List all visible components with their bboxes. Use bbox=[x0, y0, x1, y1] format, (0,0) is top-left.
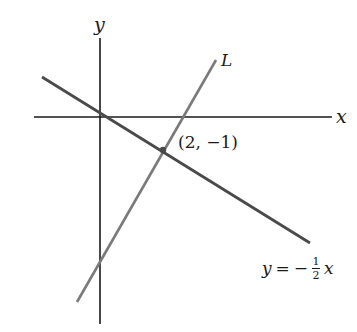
intersection-label: (2, −1) bbox=[178, 134, 238, 151]
line-L-label: L bbox=[221, 52, 232, 69]
graph-svg bbox=[0, 0, 357, 332]
line-L bbox=[77, 60, 216, 302]
line-y-neg-half-x bbox=[42, 77, 310, 243]
intersection-point bbox=[160, 147, 166, 153]
eq-lhs: y bbox=[262, 260, 272, 277]
eq-sign: = bbox=[276, 260, 290, 277]
eq-numerator: 1 bbox=[313, 256, 320, 267]
eq-fraction: 1 2 bbox=[312, 256, 320, 281]
x-axis-label: x bbox=[336, 107, 347, 126]
y-axis-label: y bbox=[94, 15, 105, 34]
eq-denominator: 2 bbox=[313, 270, 320, 281]
eq-var: x bbox=[324, 260, 334, 277]
line-equation-label: y = − 1 2 x bbox=[262, 256, 334, 281]
eq-minus: − bbox=[294, 260, 308, 277]
diagram-canvas: y x L (2, −1) y = − 1 2 x bbox=[0, 0, 357, 332]
